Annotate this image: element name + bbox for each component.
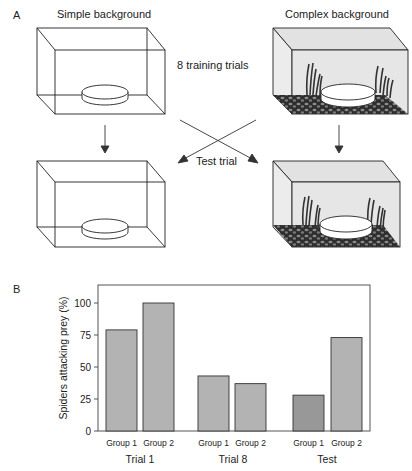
x-category-label: Group 2 — [331, 438, 362, 448]
x-category-label: Group 2 — [235, 438, 266, 448]
x-group-label: Trial 8 — [219, 453, 248, 465]
y-tick-label: 50 — [80, 362, 92, 373]
x-group-label: Trial 1 — [126, 453, 155, 465]
x-category-label: Group 2 — [143, 438, 174, 448]
x-category-label: Group 1 — [106, 438, 137, 448]
complex-box-test — [273, 161, 400, 247]
bars — [106, 303, 362, 431]
arrows — [101, 120, 343, 163]
panel-a-diagram — [0, 0, 412, 270]
y-tick-label: 100 — [74, 298, 91, 309]
y-tick-label: 0 — [85, 426, 91, 437]
bar-test-group-1 — [293, 395, 324, 431]
bar-trial-8-group-1 — [198, 376, 229, 431]
bar-trial-1-group-2 — [143, 303, 174, 431]
x-group-label: Test — [317, 453, 336, 465]
bar-chart: 0255075100 Group 1Group 2Group 1Group 2G… — [0, 270, 412, 470]
x-category-label: Group 1 — [293, 438, 324, 448]
bar-test-group-2 — [331, 338, 362, 431]
chart-frame — [98, 285, 370, 431]
x-axis-labels: Group 1Group 2Group 1Group 2Group 1Group… — [106, 438, 362, 465]
x-category-label: Group 1 — [198, 438, 229, 448]
bar-trial-1-group-1 — [106, 330, 137, 431]
simple-box-training — [37, 28, 165, 114]
bar-trial-8-group-2 — [235, 384, 266, 431]
y-tick-label: 25 — [80, 394, 92, 405]
complex-box-training — [273, 28, 408, 114]
y-tick-label: 75 — [80, 330, 92, 341]
simple-box-test — [37, 161, 165, 247]
y-axis-label: Spiders attacking prey (%) — [57, 296, 69, 419]
y-axis-ticks: 0255075100 — [74, 298, 98, 437]
